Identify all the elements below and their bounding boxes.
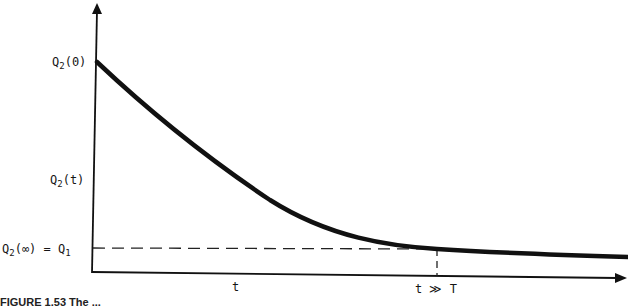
y-axis-arrow-icon [92, 3, 102, 14]
label-q2-inf-arg: (∞) = Q [15, 242, 66, 256]
decay-curve [97, 62, 628, 257]
x-axis [92, 272, 618, 278]
label-x-t-gg-T: t ≫ T [415, 283, 457, 295]
x-axis-arrow-icon [615, 273, 627, 283]
label-q2-t-arg: (t) [63, 173, 85, 187]
label-q2-t: Q2(t) [50, 174, 84, 190]
label-x-t: t [232, 281, 239, 293]
label-q2-0: Q2(0) [52, 56, 86, 72]
label-q1-sub: 1 [65, 248, 70, 258]
figure-caption: FIGURE 1.53 The ... [0, 296, 101, 308]
y-axis [92, 10, 97, 273]
label-q2-0-arg: (0) [65, 55, 87, 69]
asymptote-dashed-line [93, 248, 437, 249]
label-q2-inf-eq-q1: Q2(∞) = Q1 [2, 243, 71, 259]
